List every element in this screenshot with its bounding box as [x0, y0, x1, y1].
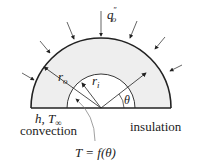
half-cylinder-diagram: q″o ro ri θ h, T∞ convection insulation …	[0, 0, 199, 163]
heat-flux-label: q″o	[107, 6, 117, 24]
temperature-pointer	[76, 99, 95, 141]
inner-radius-label: ri	[92, 73, 100, 90]
angle-label: θ	[124, 93, 130, 107]
insulation-label: insulation	[130, 119, 182, 134]
temperature-label: T = f(θ)	[75, 145, 116, 160]
convection-label: convection	[20, 123, 78, 138]
